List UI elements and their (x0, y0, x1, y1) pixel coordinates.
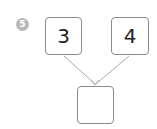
problem-number-badge: 5 (16, 18, 29, 31)
number-right: 4 (124, 24, 137, 48)
answer-box[interactable] (77, 86, 114, 124)
number-box-left: 3 (45, 17, 82, 55)
number-box-right: 4 (111, 17, 149, 55)
number-left: 3 (57, 24, 70, 48)
